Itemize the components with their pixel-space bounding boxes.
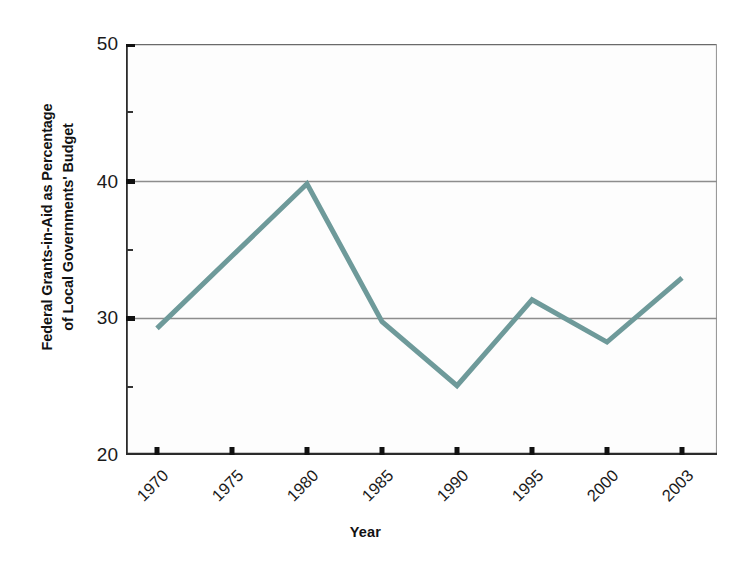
x-tick-label-2003: 2003 [642, 466, 698, 522]
x-tick-label-2000: 2000 [567, 466, 623, 522]
x-axis-tick-labels: 1970 1975 1980 1985 1990 1995 2000 2003 [0, 0, 731, 561]
x-tick-label-1990: 1990 [417, 466, 473, 522]
x-axis-title: Year [0, 524, 731, 540]
x-tick-label-1975: 1975 [192, 466, 248, 522]
x-tick-label-1995: 1995 [492, 466, 548, 522]
x-tick-label-1985: 1985 [342, 466, 398, 522]
line-chart-figure: Federal Grants-in-Aid as Percentage of L… [0, 0, 731, 561]
x-tick-label-1980: 1980 [267, 466, 323, 522]
x-tick-label-1970: 1970 [117, 466, 173, 522]
